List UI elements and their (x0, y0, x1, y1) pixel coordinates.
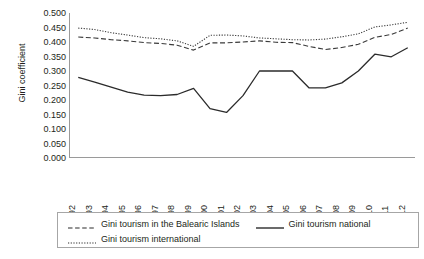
legend-label: Gini tourism international (101, 234, 201, 244)
legend-row: Gini tourism in the Balearic IslandsGini… (68, 217, 371, 231)
y-tick-label: 0.450 (30, 23, 66, 33)
y-tick-label: 0.400 (30, 37, 66, 47)
y-tick-label: 0.500 (30, 8, 66, 18)
legend-item[interactable]: Gini tourism national (256, 217, 371, 231)
chart-legend: Gini tourism in the Balearic IslandsGini… (57, 212, 419, 248)
plot-area (69, 13, 415, 158)
legend-label: Gini tourism national (289, 219, 371, 229)
y-tick-label: 0.050 (30, 139, 66, 149)
legend-swatch-dotted-icon (68, 234, 96, 244)
legend-item[interactable]: Gini tourism in the Balearic Islands (68, 217, 240, 231)
series-line-2 (78, 48, 408, 113)
y-axis-tick-labels: 0.5000.4500.4000.3500.3000.2500.2000.150… (30, 8, 66, 163)
series-line-3 (78, 22, 408, 46)
series-line-1 (78, 28, 408, 50)
y-axis-title: Gini coefficient (17, 18, 27, 128)
y-tick-label: 0.200 (30, 95, 66, 105)
series-canvas (69, 12, 416, 158)
y-tick-label: 0.100 (30, 124, 66, 134)
legend-row: Gini tourism international (68, 232, 201, 246)
legend-item[interactable]: Gini tourism international (68, 232, 201, 246)
y-tick-label: 0.250 (30, 81, 66, 91)
chart-figure: Gini coefficient 0.5000.4500.4000.3500.3… (0, 0, 424, 259)
y-tick-label: 0.350 (30, 52, 66, 62)
legend-swatch-dashed-icon (68, 219, 96, 229)
y-tick-label: 0.150 (30, 110, 66, 120)
y-tick-label: 0.300 (30, 66, 66, 76)
legend-swatch-solid-icon (256, 219, 284, 229)
y-tick-label: 0.000 (30, 153, 66, 163)
x-axis-tick-labels: 1992199319941995199619971998199920002001… (69, 160, 415, 205)
legend-label: Gini tourism in the Balearic Islands (101, 219, 240, 229)
